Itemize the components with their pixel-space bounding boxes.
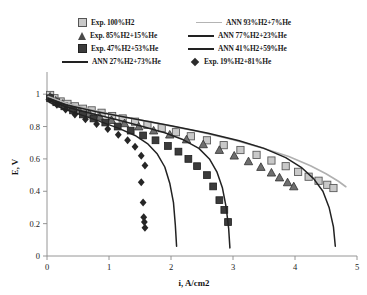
legend-row: ANN 41%H2+59%He	[188, 42, 287, 55]
legend-item-ann-77-h2: ANN 77%H2+23%He	[188, 31, 287, 40]
svg-text:0.6: 0.6	[29, 154, 40, 164]
legend-row: ANN 27%H2+73%He	[62, 55, 161, 68]
series-group	[46, 91, 346, 248]
svg-text:4: 4	[293, 262, 298, 272]
legend-label: ANN 41%H2+59%He	[218, 44, 287, 53]
svg-text:0: 0	[36, 251, 40, 261]
svg-text:i, A/cm2: i, A/cm2	[179, 278, 210, 288]
legend-item-ann-41-h2: ANN 41%H2+59%He	[188, 44, 287, 53]
legend-label: Exp. 19%H2+81%He	[204, 57, 271, 66]
legend-row: Exp. 47%H2+53%He	[78, 42, 158, 55]
line-dark-icon	[188, 48, 214, 50]
legend-item-exp-85-h2: Exp. 85%H2+15%He	[78, 31, 157, 40]
svg-text:3: 3	[231, 262, 235, 272]
axis-labels-group: 01234500.20.40.60.81i, A/cm2E, V	[10, 89, 359, 288]
legend-row: Exp. 85%H2+15%He	[78, 29, 157, 42]
line-dark-icon	[62, 61, 88, 63]
svg-text:0.4: 0.4	[29, 186, 40, 196]
legend-label: Exp. 100%H2	[91, 18, 134, 27]
legend-row: ANN 93%H2+7%He	[196, 16, 291, 29]
triangle-marker-icon	[78, 32, 86, 40]
legend-label: ANN 93%H2+7%He	[226, 18, 291, 27]
svg-text:E, V: E, V	[10, 158, 20, 175]
svg-text:2: 2	[169, 262, 173, 272]
svg-text:0: 0	[45, 262, 49, 272]
legend-label: ANN 77%H2+23%He	[218, 31, 287, 40]
square-open-marker-icon	[78, 18, 87, 27]
diamond-marker-icon	[191, 57, 199, 65]
legend-label: Exp. 47%H2+53%He	[91, 44, 158, 53]
legend-item-exp-47-h2: Exp. 47%H2+53%He	[78, 44, 158, 53]
legend-item-ann-27-h2: ANN 27%H2+73%He	[62, 57, 161, 66]
square-filled-marker-icon	[78, 44, 87, 53]
legend-row: Exp. 100%H2	[78, 16, 134, 29]
legend-row: Exp. 19%H2+81%He	[192, 55, 271, 68]
legend-item-exp-19-h2: Exp. 19%H2+81%He	[192, 57, 271, 66]
legend-item-ann-93-h2: ANN 93%H2+7%He	[196, 18, 291, 27]
line-gray-icon	[196, 22, 222, 23]
chart-figure: Exp. 100%H2 ANN 93%H2+7%He Exp. 85%H2+15…	[0, 0, 367, 295]
chart-legend: Exp. 100%H2 ANN 93%H2+7%He Exp. 85%H2+15…	[0, 0, 367, 70]
legend-label: ANN 27%H2+73%He	[92, 57, 161, 66]
svg-text:0.2: 0.2	[29, 219, 40, 229]
svg-text:1: 1	[107, 262, 111, 272]
legend-label: Exp. 85%H2+15%He	[90, 31, 157, 40]
svg-text:1: 1	[36, 89, 40, 99]
legend-row: ANN 77%H2+23%He	[188, 29, 287, 42]
line-dark-icon	[188, 35, 214, 37]
svg-text:5: 5	[355, 262, 359, 272]
svg-text:0.8: 0.8	[29, 122, 40, 132]
legend-item-exp-100-h2: Exp. 100%H2	[78, 18, 134, 27]
